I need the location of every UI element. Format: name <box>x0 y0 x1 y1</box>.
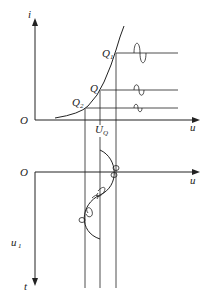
upper-plot: i O u Q 1 Q Q 2 U Q <box>20 8 196 137</box>
u-axis-label-upper: u <box>190 121 196 133</box>
iv-curve <box>55 26 124 118</box>
q2-label: Q <box>72 96 80 108</box>
lower-origin-label: O <box>20 166 28 178</box>
svg-text:2: 2 <box>80 102 84 110</box>
u-axis-label-lower: u <box>190 174 196 186</box>
diagram-canvas: i O u Q 1 Q Q 2 U Q O u u 1 t <box>0 0 204 305</box>
i-axis-label: i <box>28 8 31 20</box>
lower-plot: O u u 1 t <box>11 150 196 292</box>
svg-text:Q: Q <box>103 129 108 137</box>
u1-label: u <box>11 236 17 248</box>
svg-text:1: 1 <box>18 242 22 250</box>
t-axis-label: t <box>24 280 28 292</box>
q-label: Q <box>90 82 98 94</box>
upper-origin-label: O <box>20 114 28 126</box>
loop-5 <box>86 208 92 217</box>
svg-text:1: 1 <box>110 53 114 61</box>
q1-label: Q <box>102 47 110 59</box>
u1-waveform <box>84 150 114 239</box>
